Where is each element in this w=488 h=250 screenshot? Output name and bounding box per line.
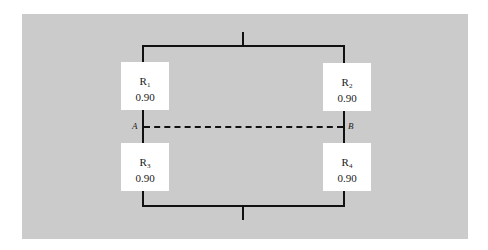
component-r2: R2 0.90 [323,63,371,111]
top-wire [142,45,345,47]
a-b-dashed-link [144,126,343,128]
r2-value: 0.90 [337,92,356,104]
r3-value: 0.90 [135,172,154,184]
r1-value: 0.90 [135,91,154,103]
node-b-label: B [348,121,354,131]
node-a-label: A [132,121,138,131]
bottom-terminal-wire [242,205,244,220]
component-r3: R3 0.90 [121,143,169,191]
component-r1: R1 0.90 [121,62,169,110]
r4-value: 0.90 [337,172,356,184]
component-r4: R4 0.90 [323,143,371,191]
